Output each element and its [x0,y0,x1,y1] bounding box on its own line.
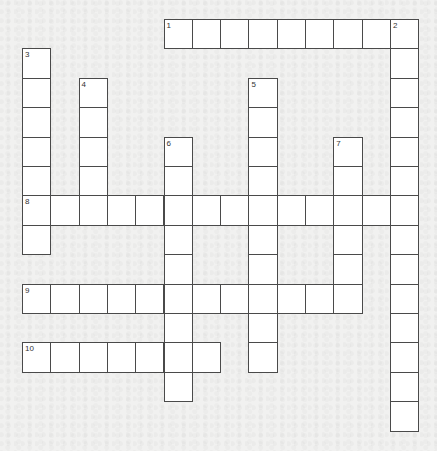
cell-letter-input[interactable] [80,79,107,107]
grid-cell[interactable]: 8 [22,195,51,225]
cell-letter-input[interactable] [80,138,107,166]
grid-cell[interactable] [220,19,249,49]
cell-letter-input[interactable] [193,20,220,48]
grid-cell[interactable] [390,372,419,402]
grid-cell[interactable] [164,313,193,343]
grid-cell[interactable] [305,284,334,314]
grid-cell[interactable] [79,195,108,225]
cell-letter-input[interactable] [249,167,276,195]
cell-letter-input[interactable] [23,196,50,224]
grid-cell[interactable] [50,342,79,372]
cell-letter-input[interactable] [221,196,248,224]
cell-letter-input[interactable] [193,343,220,371]
grid-cell[interactable]: 5 [248,78,277,108]
cell-letter-input[interactable] [391,108,418,136]
grid-cell[interactable] [390,342,419,372]
grid-cell[interactable] [277,284,306,314]
grid-cell[interactable] [107,195,136,225]
cell-letter-input[interactable] [165,20,192,48]
grid-cell[interactable] [248,313,277,343]
cell-letter-input[interactable] [391,167,418,195]
cell-letter-input[interactable] [136,343,163,371]
cell-letter-input[interactable] [391,138,418,166]
cell-letter-input[interactable] [165,314,192,342]
grid-cell[interactable] [390,254,419,284]
cell-letter-input[interactable] [278,20,305,48]
cell-letter-input[interactable] [306,285,333,313]
grid-cell[interactable] [164,284,193,314]
cell-letter-input[interactable] [165,373,192,401]
cell-letter-input[interactable] [391,314,418,342]
grid-cell[interactable]: 1 [164,19,193,49]
cell-letter-input[interactable] [80,196,107,224]
cell-letter-input[interactable] [165,167,192,195]
cell-letter-input[interactable] [391,343,418,371]
cell-letter-input[interactable] [249,79,276,107]
cell-letter-input[interactable] [334,138,361,166]
grid-cell[interactable]: 7 [333,137,362,167]
grid-cell[interactable] [79,107,108,137]
grid-cell[interactable] [248,19,277,49]
grid-cell[interactable] [390,195,419,225]
grid-cell[interactable] [192,284,221,314]
grid-cell[interactable] [333,225,362,255]
cell-letter-input[interactable] [23,138,50,166]
cell-letter-input[interactable] [136,285,163,313]
cell-letter-input[interactable] [23,343,50,371]
grid-cell[interactable] [305,19,334,49]
cell-letter-input[interactable] [391,285,418,313]
cell-letter-input[interactable] [306,196,333,224]
cell-letter-input[interactable] [249,20,276,48]
cell-letter-input[interactable] [249,138,276,166]
grid-cell[interactable] [390,166,419,196]
grid-cell[interactable]: 2 [390,19,419,49]
cell-letter-input[interactable] [221,285,248,313]
grid-cell[interactable] [333,166,362,196]
cell-letter-input[interactable] [23,49,50,77]
cell-letter-input[interactable] [23,79,50,107]
cell-letter-input[interactable] [249,226,276,254]
grid-cell[interactable] [390,107,419,137]
cell-letter-input[interactable] [249,314,276,342]
cell-letter-input[interactable] [249,255,276,283]
grid-cell[interactable] [192,19,221,49]
cell-letter-input[interactable] [51,196,78,224]
cell-letter-input[interactable] [51,285,78,313]
grid-cell[interactable] [107,284,136,314]
cell-letter-input[interactable] [108,285,135,313]
cell-letter-input[interactable] [136,196,163,224]
grid-cell[interactable] [192,195,221,225]
cell-letter-input[interactable] [334,196,361,224]
grid-cell[interactable] [79,284,108,314]
grid-cell[interactable] [362,195,391,225]
grid-cell[interactable] [362,19,391,49]
cell-letter-input[interactable] [165,226,192,254]
grid-cell[interactable] [79,137,108,167]
cell-letter-input[interactable] [334,255,361,283]
cell-letter-input[interactable] [249,285,276,313]
grid-cell[interactable] [248,195,277,225]
grid-cell[interactable] [305,195,334,225]
cell-letter-input[interactable] [108,343,135,371]
grid-cell[interactable] [277,195,306,225]
grid-cell[interactable] [164,166,193,196]
grid-cell[interactable] [248,137,277,167]
cell-letter-input[interactable] [23,108,50,136]
grid-cell[interactable]: 4 [79,78,108,108]
grid-cell[interactable] [390,137,419,167]
cell-letter-input[interactable] [23,226,50,254]
grid-cell[interactable]: 6 [164,137,193,167]
grid-cell[interactable] [248,284,277,314]
cell-letter-input[interactable] [278,196,305,224]
cell-letter-input[interactable] [391,79,418,107]
cell-letter-input[interactable] [193,196,220,224]
grid-cell[interactable] [333,195,362,225]
cell-letter-input[interactable] [334,167,361,195]
grid-cell[interactable] [390,225,419,255]
cell-letter-input[interactable] [108,196,135,224]
grid-cell[interactable] [248,225,277,255]
grid-cell[interactable] [164,372,193,402]
grid-cell[interactable] [22,78,51,108]
cell-letter-input[interactable] [51,343,78,371]
cell-letter-input[interactable] [391,402,418,430]
